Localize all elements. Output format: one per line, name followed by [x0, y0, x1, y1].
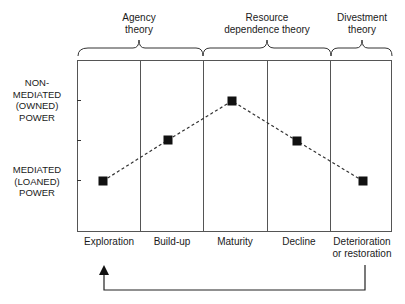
stage-label-exploration: Exploration: [77, 236, 141, 248]
marker-exploration: [99, 177, 108, 186]
y-label-mediated: MEDIATED (LOANED) POWER: [0, 164, 74, 199]
stage-label-deterioration: Deterioration or restoration: [326, 236, 398, 260]
theory-line: dependence theory: [212, 24, 322, 36]
y-label-non-mediated: NON- MEDIATED (OWNED) POWER: [0, 77, 74, 123]
feedback-arrow: [99, 265, 365, 290]
stage-label-decline: Decline: [267, 236, 331, 248]
power-trend-line: [103, 101, 363, 181]
theory-line: Divestment: [327, 12, 397, 24]
arrowhead-icon: [99, 265, 109, 275]
y-label-line: MEDIATED: [0, 89, 74, 101]
stage-line: Build-up: [140, 236, 204, 248]
y-label-line: POWER: [0, 187, 74, 199]
brace-resource: [203, 40, 331, 56]
stage-line: Maturity: [203, 236, 267, 248]
stage-frame: [78, 60, 392, 232]
stage-line: Exploration: [77, 236, 141, 248]
stage-line: or restoration: [326, 248, 398, 260]
data-markers: [99, 97, 368, 186]
theory-line: theory: [104, 24, 174, 36]
stage-label-maturity: Maturity: [203, 236, 267, 248]
stage-line: Deterioration: [326, 236, 398, 248]
theory-braces: [78, 40, 392, 56]
marker-deterioration: [359, 177, 368, 186]
marker-decline: [293, 137, 302, 146]
theory-label-divestment: Divestment theory: [327, 12, 397, 36]
stage-line: Decline: [267, 236, 331, 248]
theory-label-resource-dependence: Resource dependence theory: [212, 12, 322, 36]
brace-divestment: [331, 40, 392, 56]
theory-line: Resource: [212, 12, 322, 24]
theory-line: Agency: [104, 12, 174, 24]
y-label-line: (OWNED): [0, 100, 74, 112]
theory-label-agency: Agency theory: [104, 12, 174, 36]
theory-line: theory: [327, 24, 397, 36]
marker-build-up: [164, 136, 173, 145]
marker-maturity: [228, 97, 237, 106]
stage-label-build-up: Build-up: [140, 236, 204, 248]
y-label-line: POWER: [0, 112, 74, 124]
brace-agency: [78, 40, 203, 56]
y-label-line: MEDIATED: [0, 164, 74, 176]
y-label-line: (LOANED): [0, 176, 74, 188]
y-label-line: NON-: [0, 77, 74, 89]
